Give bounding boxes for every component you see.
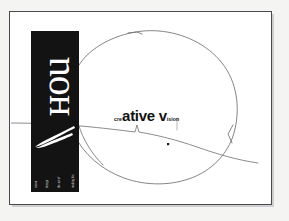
caption-line: making the	[72, 174, 75, 188]
ink-dot	[167, 143, 169, 145]
headline: cre ative v ision	[114, 108, 179, 123]
white-swoosh-icon	[34, 124, 76, 150]
caption-line: the art of	[58, 177, 61, 188]
black-vertical-bar: ноu vision design the art of making the …	[31, 31, 79, 192]
circle-top-jog	[128, 32, 142, 34]
headline-lead-small: cre	[114, 117, 122, 122]
caption-line: vision	[35, 181, 38, 188]
caption-line: design	[46, 180, 49, 188]
bar-caption-block: vision design the art of making the invi…	[35, 152, 75, 188]
frame-shadow-bottom	[12, 205, 274, 207]
poster-scan-page: ноu vision design the art of making the …	[0, 0, 289, 221]
headline-tail-small: ision	[167, 117, 180, 122]
circle-right-tick	[228, 125, 233, 143]
frame-shadow-right	[272, 14, 274, 207]
descending-stroke	[79, 126, 103, 165]
headline-big: ative v	[122, 108, 167, 123]
poster-canvas: ноu vision design the art of making the …	[11, 13, 270, 203]
